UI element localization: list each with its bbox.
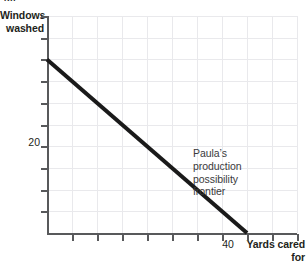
ppf-line-chart (47, 16, 297, 235)
x-axis-tick (122, 234, 124, 241)
ppf-annotation-label: Paula’s production possibility frontier (193, 147, 242, 198)
plot-area: Paula’s production possibility frontier (47, 16, 297, 233)
gridline-vertical (297, 16, 298, 233)
x-axis-tick (147, 234, 149, 241)
x-axis-tick (172, 234, 174, 241)
figure-tag: (b) (4, 0, 16, 1)
x-axis-tick (297, 234, 299, 241)
y-axis-tick-label-20: 20 (13, 136, 40, 148)
x-axis-tick (272, 234, 274, 241)
x-axis-tick (97, 234, 99, 241)
x-axis-tick (222, 234, 224, 241)
x-axis-tick (247, 234, 249, 241)
y-axis-title: Windows washed (0, 9, 44, 34)
x-axis-tick-label-40: 40 (214, 238, 242, 250)
x-axis-tick (197, 234, 199, 241)
x-axis-title: Yards cared for (232, 238, 305, 263)
x-axis-tick (72, 234, 74, 241)
